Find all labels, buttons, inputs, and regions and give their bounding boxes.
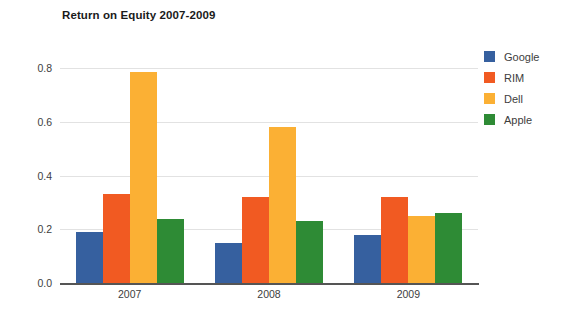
legend-swatch-google <box>484 51 495 62</box>
y-axis: 0.00.20.40.60.8 <box>0 55 52 283</box>
chart-title: Return on Equity 2007-2009 <box>62 9 215 21</box>
bar-apple-2009[interactable] <box>435 213 462 283</box>
bar-dell-2009[interactable] <box>408 216 435 283</box>
y-axis-tick-label: 0.0 <box>6 277 52 289</box>
bar-rim-2008[interactable] <box>242 197 269 283</box>
bar-apple-2007[interactable] <box>157 219 184 283</box>
x-axis: 200720082009 <box>60 288 478 308</box>
legend-swatch-apple <box>484 114 495 125</box>
legend-item-dell[interactable]: Dell <box>484 88 576 109</box>
bar-google-2008[interactable] <box>215 243 242 283</box>
x-axis-line <box>60 283 479 285</box>
chart-container: Return on Equity 2007-2009 0.00.20.40.60… <box>0 0 578 322</box>
y-axis-tick-label: 0.8 <box>6 62 52 74</box>
y-axis-tick-label: 0.2 <box>6 223 52 235</box>
bar-rim-2007[interactable] <box>103 194 130 283</box>
chart-legend: GoogleRIMDellApple <box>484 46 576 130</box>
legend-swatch-rim <box>484 72 495 83</box>
y-axis-tick-label: 0.4 <box>6 170 52 182</box>
bar-group-2009 <box>354 55 462 283</box>
bar-apple-2008[interactable] <box>296 221 323 283</box>
x-axis-tick-label-2008: 2008 <box>229 288 309 300</box>
bar-dell-2008[interactable] <box>269 127 296 283</box>
legend-item-google[interactable]: Google <box>484 46 576 67</box>
bar-group-2008 <box>215 55 323 283</box>
legend-label: Dell <box>504 93 523 105</box>
legend-label: Apple <box>504 114 532 126</box>
legend-label: RIM <box>504 72 524 84</box>
legend-swatch-dell <box>484 93 495 104</box>
y-axis-tick-label: 0.6 <box>6 116 52 128</box>
bar-dell-2007[interactable] <box>130 72 157 283</box>
x-axis-tick-label-2009: 2009 <box>368 288 448 300</box>
bar-google-2009[interactable] <box>354 235 381 283</box>
bar-google-2007[interactable] <box>76 232 103 283</box>
legend-item-rim[interactable]: RIM <box>484 67 576 88</box>
bar-rim-2009[interactable] <box>381 197 408 283</box>
legend-item-apple[interactable]: Apple <box>484 109 576 130</box>
x-axis-tick-label-2007: 2007 <box>90 288 170 300</box>
legend-label: Google <box>504 51 539 63</box>
bar-group-2007 <box>76 55 184 283</box>
plot-area <box>60 55 478 283</box>
